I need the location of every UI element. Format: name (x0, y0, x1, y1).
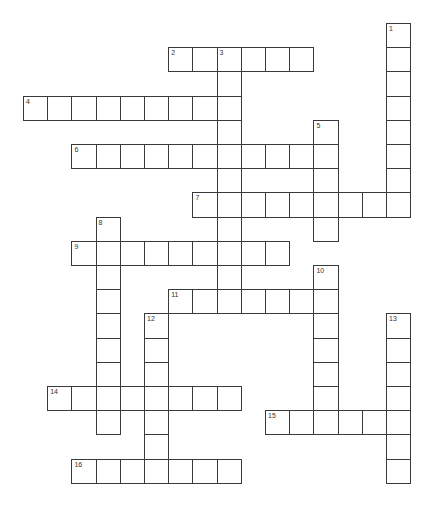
grid-cell[interactable] (192, 241, 217, 266)
grid-cell[interactable] (168, 459, 193, 484)
grid-cell[interactable] (144, 459, 169, 484)
grid-cell[interactable] (217, 217, 242, 242)
grid-cell[interactable] (217, 289, 242, 314)
grid-cell[interactable] (96, 410, 121, 435)
grid-cell[interactable] (241, 144, 266, 169)
grid-cell[interactable] (96, 459, 121, 484)
grid-cell[interactable] (289, 410, 314, 435)
grid-cell[interactable]: 15 (265, 410, 290, 435)
grid-cell[interactable] (241, 289, 266, 314)
grid-cell[interactable] (217, 192, 242, 217)
grid-cell[interactable]: 16 (71, 459, 96, 484)
grid-cell[interactable] (289, 47, 314, 72)
grid-cell[interactable] (120, 144, 145, 169)
grid-cell[interactable]: 1 (386, 23, 411, 48)
grid-cell[interactable] (386, 144, 411, 169)
grid-cell[interactable] (192, 289, 217, 314)
grid-cell[interactable] (120, 386, 145, 411)
grid-cell[interactable] (168, 144, 193, 169)
grid-cell[interactable] (96, 313, 121, 338)
grid-cell[interactable] (144, 96, 169, 121)
grid-cell[interactable] (144, 338, 169, 363)
grid-cell[interactable] (362, 192, 387, 217)
grid-cell[interactable] (217, 168, 242, 193)
grid-cell[interactable] (289, 192, 314, 217)
grid-cell[interactable] (144, 241, 169, 266)
grid-cell[interactable] (217, 386, 242, 411)
grid-cell[interactable] (144, 434, 169, 459)
grid-cell[interactable] (192, 386, 217, 411)
grid-cell[interactable] (96, 289, 121, 314)
grid-cell[interactable] (386, 362, 411, 387)
grid-cell[interactable]: 9 (71, 241, 96, 266)
grid-cell[interactable] (386, 71, 411, 96)
grid-cell[interactable] (71, 96, 96, 121)
grid-cell[interactable] (144, 144, 169, 169)
grid-cell[interactable] (313, 144, 338, 169)
grid-cell[interactable] (192, 47, 217, 72)
grid-cell[interactable] (338, 410, 363, 435)
grid-cell[interactable] (96, 241, 121, 266)
grid-cell[interactable]: 14 (47, 386, 72, 411)
grid-cell[interactable]: 13 (386, 313, 411, 338)
grid-cell[interactable] (386, 410, 411, 435)
grid-cell[interactable] (386, 96, 411, 121)
grid-cell[interactable] (265, 47, 290, 72)
grid-cell[interactable] (386, 386, 411, 411)
grid-cell[interactable] (168, 386, 193, 411)
grid-cell[interactable] (120, 96, 145, 121)
grid-cell[interactable]: 7 (192, 192, 217, 217)
grid-cell[interactable] (47, 96, 72, 121)
grid-cell[interactable]: 5 (313, 120, 338, 145)
grid-cell[interactable] (217, 144, 242, 169)
grid-cell[interactable] (241, 47, 266, 72)
grid-cell[interactable]: 8 (96, 217, 121, 242)
grid-cell[interactable] (313, 362, 338, 387)
grid-cell[interactable]: 11 (168, 289, 193, 314)
grid-cell[interactable]: 2 (168, 47, 193, 72)
grid-cell[interactable] (217, 71, 242, 96)
grid-cell[interactable] (338, 192, 363, 217)
grid-cell[interactable] (168, 241, 193, 266)
grid-cell[interactable] (386, 459, 411, 484)
grid-cell[interactable] (265, 241, 290, 266)
grid-cell[interactable]: 4 (23, 96, 48, 121)
grid-cell[interactable] (313, 313, 338, 338)
grid-cell[interactable] (313, 168, 338, 193)
grid-cell[interactable] (313, 386, 338, 411)
grid-cell[interactable] (217, 265, 242, 290)
grid-cell[interactable] (217, 459, 242, 484)
grid-cell[interactable] (386, 434, 411, 459)
grid-cell[interactable] (96, 144, 121, 169)
grid-cell[interactable] (120, 241, 145, 266)
grid-cell[interactable] (313, 338, 338, 363)
grid-cell[interactable] (265, 144, 290, 169)
grid-cell[interactable] (289, 144, 314, 169)
grid-cell[interactable] (217, 96, 242, 121)
grid-cell[interactable] (144, 362, 169, 387)
grid-cell[interactable]: 10 (313, 265, 338, 290)
grid-cell[interactable] (241, 241, 266, 266)
grid-cell[interactable] (289, 289, 314, 314)
grid-cell[interactable] (386, 338, 411, 363)
grid-cell[interactable] (313, 410, 338, 435)
grid-cell[interactable] (313, 192, 338, 217)
grid-cell[interactable] (71, 386, 96, 411)
grid-cell[interactable] (120, 459, 145, 484)
grid-cell[interactable] (96, 96, 121, 121)
grid-cell[interactable] (386, 47, 411, 72)
grid-cell[interactable]: 12 (144, 313, 169, 338)
grid-cell[interactable] (96, 265, 121, 290)
grid-cell[interactable] (192, 144, 217, 169)
grid-cell[interactable]: 6 (71, 144, 96, 169)
grid-cell[interactable] (96, 386, 121, 411)
grid-cell[interactable] (313, 289, 338, 314)
grid-cell[interactable] (144, 410, 169, 435)
grid-cell[interactable] (265, 289, 290, 314)
grid-cell[interactable] (241, 192, 266, 217)
grid-cell[interactable] (362, 410, 387, 435)
grid-cell[interactable] (265, 192, 290, 217)
grid-cell[interactable] (386, 120, 411, 145)
grid-cell[interactable] (313, 217, 338, 242)
grid-cell[interactable] (217, 241, 242, 266)
